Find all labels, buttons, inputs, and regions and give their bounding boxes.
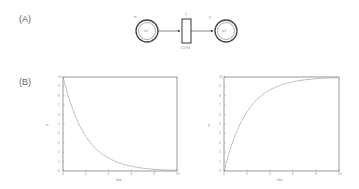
svg-text:10: 10	[58, 75, 62, 79]
svg-text:0: 0	[223, 172, 225, 176]
place-left[interactable]: m m1	[134, 15, 158, 42]
chart-left: 0123456789100246810 m time	[46, 75, 180, 182]
chart-left-xlabel: time	[116, 178, 122, 182]
svg-text:5: 5	[219, 122, 221, 126]
svg-text:9: 9	[58, 84, 60, 88]
svg-text:0: 0	[58, 169, 60, 173]
svg-text:0: 0	[62, 172, 64, 176]
svg-text:8: 8	[58, 94, 60, 98]
svg-text:2: 2	[246, 172, 248, 176]
svg-text:1: 1	[219, 160, 221, 164]
svg-text:2: 2	[219, 150, 221, 154]
svg-text:5: 5	[58, 122, 60, 126]
figure-canvas: m m1 T 0.5*m1 g m2 0123456789100246810 m…	[0, 0, 359, 189]
svg-text:10: 10	[338, 172, 342, 176]
svg-text:10: 10	[219, 75, 223, 79]
place-right-label: g	[209, 15, 211, 19]
svg-text:6: 6	[219, 113, 221, 117]
svg-text:4: 4	[219, 131, 221, 135]
svg-text:3: 3	[58, 141, 60, 145]
svg-text:6: 6	[58, 113, 60, 117]
transition-label: T	[185, 13, 187, 17]
svg-text:2: 2	[85, 172, 87, 176]
svg-text:2: 2	[58, 150, 60, 154]
svg-text:8: 8	[219, 94, 221, 98]
chart-right-xlabel: time	[277, 178, 283, 182]
svg-text:10: 10	[176, 172, 180, 176]
transition[interactable]: T 0.5*m1	[181, 13, 191, 50]
svg-text:8: 8	[315, 172, 317, 176]
chart-left-ylabel: m	[46, 123, 49, 127]
place-left-label: m	[134, 15, 137, 19]
chart-right: 0123456789100246810 g time	[208, 75, 342, 182]
place-right-inner: m2	[222, 29, 226, 33]
svg-text:3: 3	[219, 141, 221, 145]
svg-text:6: 6	[292, 172, 294, 176]
svg-text:1: 1	[58, 160, 60, 164]
svg-text:6: 6	[130, 172, 132, 176]
svg-text:9: 9	[219, 84, 221, 88]
place-right[interactable]: g m2	[209, 15, 237, 42]
svg-text:4: 4	[58, 131, 60, 135]
place-left-inner: m1	[144, 29, 148, 33]
svg-text:4: 4	[269, 172, 271, 176]
svg-text:7: 7	[58, 103, 60, 107]
svg-text:8: 8	[153, 172, 155, 176]
transition-rate: 0.5*m1	[181, 46, 191, 50]
svg-text:7: 7	[219, 103, 221, 107]
svg-text:0: 0	[219, 169, 221, 173]
petri-net: m m1 T 0.5*m1 g m2	[134, 13, 237, 50]
svg-text:4: 4	[108, 172, 110, 176]
chart-right-ylabel: g	[208, 123, 210, 127]
